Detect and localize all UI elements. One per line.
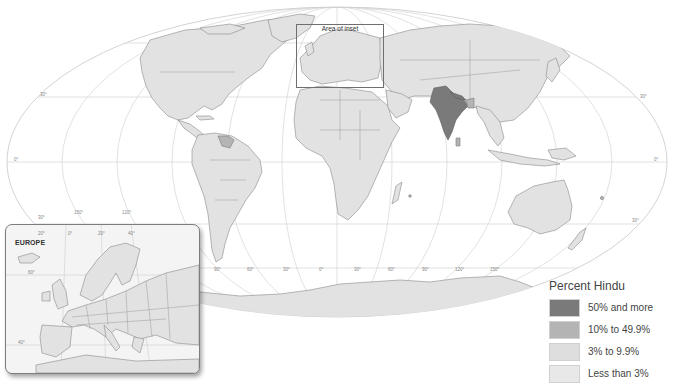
legend-item-10-to-49: 10% to 49.9% (549, 320, 673, 339)
legend-label: 10% to 49.9% (588, 324, 650, 335)
inset-title: EUROPE (15, 239, 45, 246)
europe-inset-map: 20° 0° 20° 40° 60° 40° (6, 225, 199, 373)
svg-text:120°: 120° (122, 210, 132, 215)
legend-label: Less than 3% (588, 368, 649, 379)
area-of-inset-box: Area of inset (296, 24, 384, 88)
svg-text:30°: 30° (38, 215, 45, 220)
svg-text:30°: 30° (40, 92, 47, 97)
legend-swatch (549, 343, 580, 361)
legend-label: 3% to 9.9% (588, 346, 639, 357)
svg-text:90°: 90° (214, 267, 221, 272)
svg-text:60°: 60° (28, 270, 35, 275)
europe-inset: 20° 0° 20° 40° 60° 40° EUROPE (5, 224, 200, 374)
svg-text:120°: 120° (455, 267, 465, 272)
svg-text:40°: 40° (128, 231, 135, 236)
svg-text:90°: 90° (422, 267, 429, 272)
svg-text:0°: 0° (654, 157, 659, 162)
svg-text:0°: 0° (14, 157, 19, 162)
svg-text:20°: 20° (98, 231, 105, 236)
legend-title: Percent Hindu (549, 279, 673, 293)
svg-text:30°: 30° (354, 267, 361, 272)
legend-item-3-to-9: 3% to 9.9% (549, 342, 673, 361)
svg-text:0°: 0° (68, 231, 73, 236)
legend-swatch (549, 365, 580, 383)
svg-text:40°: 40° (18, 340, 25, 345)
legend-label: 50% and more (588, 302, 653, 313)
fiji (600, 196, 603, 199)
iberia (40, 325, 72, 357)
legend-item-50-plus: 50% and more (549, 298, 673, 317)
svg-text:20°: 20° (38, 231, 45, 236)
svg-text:30°: 30° (283, 267, 290, 272)
svg-text:150°: 150° (490, 267, 500, 272)
sri-lanka (456, 138, 460, 146)
svg-text:30°: 30° (632, 218, 639, 223)
svg-text:30°: 30° (640, 94, 647, 99)
mauritius (409, 195, 412, 198)
svg-text:60°: 60° (388, 267, 395, 272)
legend-swatch (549, 321, 580, 339)
area-of-inset-label: Area of inset (297, 26, 383, 33)
svg-text:60°: 60° (247, 267, 254, 272)
iceland (18, 253, 40, 263)
svg-text:150°: 150° (74, 210, 84, 215)
legend-item-less-than-3: Less than 3% (549, 364, 673, 383)
legend-swatch (549, 299, 580, 317)
legend: Percent Hindu 50% and more 10% to 49.9% … (549, 279, 673, 386)
svg-text:0°: 0° (319, 267, 324, 272)
